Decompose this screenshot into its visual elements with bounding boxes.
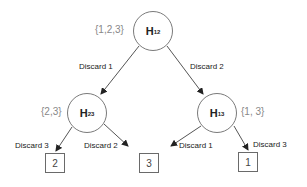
node-h23-label: H xyxy=(80,107,88,119)
set-label-h12: {1,2,3} xyxy=(95,24,124,35)
set-label-h23: {2,3} xyxy=(41,106,62,117)
edge-h13-leaf1 xyxy=(234,126,248,150)
edge-label-discard-1: Discard 1 xyxy=(79,62,113,71)
edge-label-discard-2: Discard 2 xyxy=(190,62,224,71)
node-h12-label: H xyxy=(146,25,154,37)
edge-label-h13-discard-3: Discard 3 xyxy=(253,140,287,149)
node-h13: H13 xyxy=(197,93,237,133)
node-h13-subscript: 13 xyxy=(218,111,225,117)
node-h13-label: H xyxy=(210,107,218,119)
leaf-box-2: 2 xyxy=(45,153,65,173)
node-h12: H12 xyxy=(133,11,173,51)
leaf-box-1: 1 xyxy=(238,152,258,172)
edge-h23-leaf2 xyxy=(56,127,72,151)
node-h12-subscript: 12 xyxy=(154,29,161,35)
edge-label-h13-discard-1: Discard 1 xyxy=(179,141,213,150)
leaf-box-3: 3 xyxy=(139,153,159,173)
edge-label-h23-discard-3: Discard 3 xyxy=(15,141,49,150)
node-h23: H23 xyxy=(67,93,107,133)
node-h23-subscript: 23 xyxy=(88,111,95,117)
set-label-h13: {1, 3} xyxy=(241,106,264,117)
edge-label-h23-discard-2: Discard 2 xyxy=(84,141,118,150)
